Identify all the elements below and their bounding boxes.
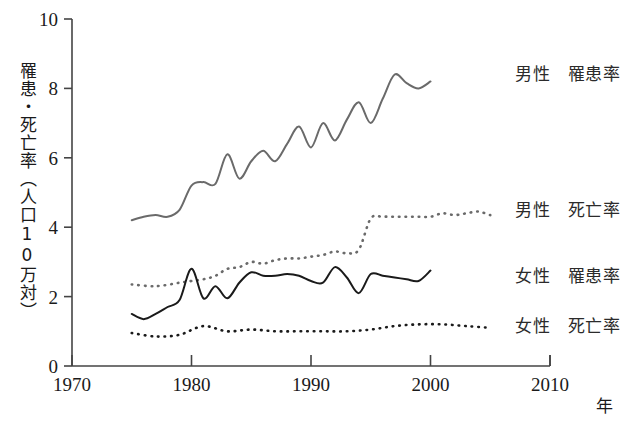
svg-text:10: 10: [39, 9, 58, 30]
svg-text:2000: 2000: [412, 374, 450, 395]
chart-series-layer: [132, 74, 491, 337]
svg-text:1990: 1990: [292, 374, 330, 395]
chart-tick-labels: 024681019701980199020002010: [39, 9, 569, 395]
svg-text:1970: 1970: [53, 374, 91, 395]
svg-text:2: 2: [49, 287, 59, 308]
svg-text:6: 6: [49, 148, 59, 169]
series-male-incidence: [132, 74, 431, 220]
svg-text:8: 8: [49, 78, 59, 99]
svg-text:4: 4: [49, 217, 59, 238]
legend-item-female-mortality: 女性 死亡率: [515, 312, 620, 337]
chart-container: 罹患・死亡率（人口10万対） 0246810197019801990200020…: [0, 0, 642, 424]
legend-item-male-incidence: 男性 罹患率: [515, 60, 620, 85]
legend-item-female-incidence: 女性 罹患率: [515, 262, 620, 287]
legend-item-male-mortality: 男性 死亡率: [515, 196, 620, 221]
series-male-mortality: [132, 212, 491, 287]
series-female-mortality: [132, 324, 491, 336]
series-female-incidence: [132, 267, 431, 319]
svg-text:2010: 2010: [531, 374, 569, 395]
chart-axes: [64, 19, 550, 366]
svg-text:1980: 1980: [173, 374, 211, 395]
x-axis-unit-label: 年: [596, 392, 613, 417]
